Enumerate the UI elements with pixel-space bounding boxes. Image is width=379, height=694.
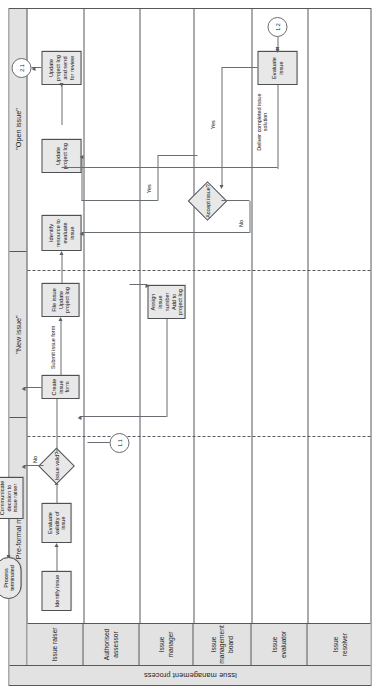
screenshot-root: Issue management process Pre-formal mana… [0, 0, 379, 694]
lane-separator [83, 9, 84, 623]
connector [61, 253, 62, 283]
connector [60, 319, 61, 375]
task-identify-resource[interactable]: Identify resource to evaluate issue [41, 215, 81, 251]
event-link-1-2[interactable]: 1.2 [267, 17, 287, 37]
lane-separator [307, 9, 308, 623]
connector [157, 155, 197, 156]
connector [129, 284, 147, 285]
flow-label-accept-yes-upper: Yes [145, 184, 151, 193]
gateway-issue-valid[interactable] [38, 448, 75, 485]
connector [23, 465, 43, 466]
connector [221, 67, 257, 68]
connector [157, 156, 158, 201]
lane-label-authorised-assessor: Authorised assessor [83, 624, 139, 665]
connector [277, 85, 278, 169]
arrowhead [79, 155, 83, 159]
connector [221, 200, 249, 201]
connector [87, 442, 109, 443]
arrowhead [79, 232, 83, 236]
connector [166, 319, 167, 417]
flow-label-accept-no: No [237, 220, 243, 227]
task-update-log-send-review[interactable]: Update project log and send for review [41, 51, 81, 85]
arrowhead [58, 317, 62, 321]
connector [81, 156, 82, 201]
phase-label: "Open issue" [13, 108, 22, 149]
lane-label-issue-resolver: Issue resolver [307, 624, 372, 665]
lane-separator [251, 9, 252, 623]
flow-label-accept-yes-lower: Yes [209, 120, 215, 129]
connector [56, 483, 57, 503]
lane-separator [139, 9, 140, 623]
connector [81, 200, 157, 201]
flow-label-submit-issue-form: Submit issue form [49, 326, 55, 369]
connector [221, 68, 222, 187]
phase-open-issue: "Open issue" [9, 7, 26, 251]
connector [56, 545, 57, 571]
pool-title: Issue management process [9, 665, 370, 685]
phase-new-issue: "New issue" [9, 251, 26, 417]
phase-label: "New issue" [13, 315, 22, 353]
process-pool: Issue management process Pre-formal mana… [8, 8, 371, 686]
task-communicate-decision[interactable]: Communicate decision to issue raiser [0, 477, 23, 519]
connector [79, 416, 166, 417]
event-process-terminated[interactable]: Process terminated [0, 557, 21, 599]
phase-separator [27, 436, 370, 437]
lane-label-column: Issue raiser Authorised assessor Issue m… [27, 623, 370, 665]
connector [61, 167, 277, 168]
lane-label-issue-raiser: Issue raiser [27, 624, 83, 665]
lane-label-issue-evaluator: Issue evaluator [251, 624, 307, 665]
arrowhead [219, 185, 223, 189]
task-create-issue-form[interactable]: Create issue form [41, 375, 79, 399]
arrowhead [21, 387, 25, 391]
arrowhead [77, 416, 81, 420]
lane-separator [193, 9, 194, 623]
arrowhead [31, 67, 35, 71]
arrowhead [275, 47, 279, 51]
event-link-2-1[interactable]: 2.1 [11, 58, 31, 78]
arrowhead [21, 465, 25, 469]
connector [8, 519, 9, 557]
flow-label-valid-no: No [31, 456, 37, 463]
lane-label-issue-management-board: Issue management board [193, 624, 251, 665]
task-assign-issue-number[interactable]: Assign issue number Add to project log [147, 285, 185, 319]
event-link-1-1[interactable]: 1.1 [109, 433, 129, 453]
flow-label-deliver-solution: Deliver completed issue solution [255, 89, 268, 155]
task-file-issue[interactable]: File issue Update project log [41, 283, 79, 317]
pool-title-label: Issue management process [143, 671, 236, 680]
arrowhead [145, 284, 149, 288]
connector [61, 85, 62, 125]
arrowhead [54, 543, 58, 547]
task-identify-issue[interactable]: Identify issue [41, 571, 71, 611]
connector [81, 232, 249, 233]
task-evaluate-validity[interactable]: Evaluate validity of issue [41, 503, 71, 543]
bpmn-diagram-canvas: Issue management process Pre-formal mana… [0, 0, 379, 694]
task-evaluate-issue[interactable]: Evaluate issue [257, 51, 297, 85]
phase-separator [27, 270, 370, 271]
connector [249, 201, 250, 233]
lane-label-issue-manager: Issue manager [139, 624, 193, 665]
